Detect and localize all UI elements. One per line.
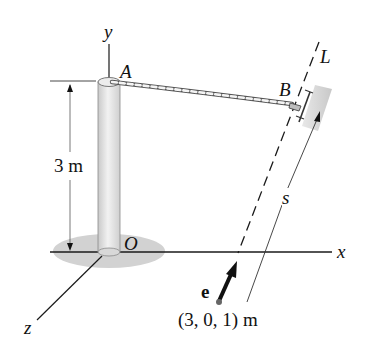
x-axis-label: x [337, 242, 345, 261]
z-axis [37, 256, 102, 320]
y-axis-label: y [104, 22, 112, 41]
point-B-label: B [279, 80, 291, 99]
point-A-label: A [120, 62, 132, 81]
pole [98, 78, 120, 257]
distance-s-label: s [282, 188, 289, 207]
diagram-figure: y A B L 3 m O x z s e (3, 0, 1) m [0, 0, 370, 354]
cable-AB [112, 82, 292, 104]
origin-O-label: O [124, 234, 138, 253]
line-L-label: L [320, 47, 331, 66]
start-point-label: (3, 0, 1) m [178, 310, 258, 329]
unit-vector-e [216, 261, 237, 305]
line-L [238, 42, 319, 253]
diagram-canvas [0, 0, 370, 354]
height-dimension-label: 3 m [53, 156, 84, 175]
z-axis-label: z [24, 318, 31, 337]
slider-block [289, 85, 332, 131]
unit-vector-e-label: e [201, 282, 209, 301]
